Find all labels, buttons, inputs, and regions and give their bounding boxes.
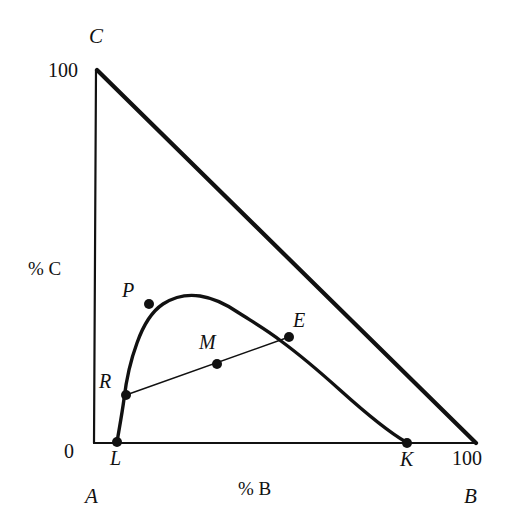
vertex-label-c: C	[89, 26, 103, 47]
data-point-r	[121, 390, 131, 400]
data-point-l	[112, 437, 122, 447]
data-point-m	[212, 359, 222, 369]
axis-label-percent-c: % C	[28, 259, 61, 278]
point-label-e: E	[293, 310, 305, 330]
tick-label-c-0: 0	[64, 441, 74, 461]
vertex-label-b: B	[464, 486, 477, 507]
point-label-r: R	[99, 371, 111, 391]
axis-label-percent-b: % B	[238, 479, 271, 498]
triangle-hypotenuse-cb	[97, 70, 476, 443]
triangle-left-leg-ca	[94, 70, 96, 443]
data-point-e	[284, 332, 294, 342]
tick-label-c-100: 100	[48, 60, 78, 80]
data-point-p	[144, 299, 154, 309]
ternary-phase-diagram: C A B 100 0 100 % C % B P R M E L K	[0, 0, 506, 523]
point-label-l: L	[110, 448, 121, 468]
point-label-k: K	[400, 449, 413, 469]
vertex-label-a: A	[85, 486, 98, 507]
point-label-p: P	[122, 280, 134, 300]
point-label-m: M	[199, 332, 216, 352]
data-point-k	[402, 438, 412, 448]
tick-label-b-100: 100	[452, 448, 482, 468]
binodal-curve	[117, 295, 406, 442]
